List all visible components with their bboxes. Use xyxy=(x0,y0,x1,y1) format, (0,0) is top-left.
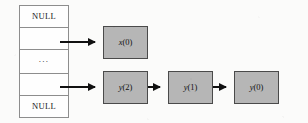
node-x0-label: x(0) xyxy=(119,38,133,47)
pointer-table-cell-ellipsis: ... xyxy=(20,50,68,75)
pointer-table-cell-null-top: NULL xyxy=(20,6,68,28)
linked-list-diagram: NULL ... NULL x(0) y(2) y(1) xyxy=(0,0,308,123)
node-y0: y(0) xyxy=(234,71,279,104)
node-y1: y(1) xyxy=(168,71,213,104)
pointer-table-cell-label: NULL xyxy=(32,12,56,21)
pointer-table-cell-pointer-x xyxy=(20,28,68,50)
pointer-table-cell-null-bottom: NULL xyxy=(20,96,68,117)
node-x0: x(0) xyxy=(103,26,148,59)
pointer-table-cell-label: ... xyxy=(39,55,49,64)
pointer-table: NULL ... NULL xyxy=(19,5,69,118)
node-y2-index: (2) xyxy=(122,82,132,92)
node-y1-index: (1) xyxy=(187,82,197,92)
node-y2-label: y(2) xyxy=(119,83,133,92)
arrow-y2-to-y1 xyxy=(148,86,160,88)
arrow-table-to-y2 xyxy=(60,86,95,88)
node-y0-label: y(0) xyxy=(250,83,264,92)
node-y1-label: y(1) xyxy=(184,83,198,92)
node-y0-index: (0) xyxy=(253,82,263,92)
pointer-table-cell-label: NULL xyxy=(32,102,56,111)
node-y2: y(2) xyxy=(103,71,148,104)
arrow-y1-to-y0 xyxy=(213,86,226,88)
node-x0-index: (0) xyxy=(122,37,132,47)
arrow-table-to-x0 xyxy=(60,41,95,43)
